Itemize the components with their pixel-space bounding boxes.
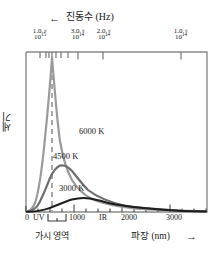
- visible-region-brace: [48, 214, 66, 221]
- x-tick-label-0: 0: [25, 214, 29, 222]
- frequency-tick-label: 2.0 × 1014: [88, 28, 120, 41]
- x-tick-label-2000: 2000: [121, 214, 137, 222]
- x-tick-label-1000: 1000: [69, 214, 85, 222]
- frequency-axis-title: 진동수 (Hz): [66, 12, 114, 22]
- x-tick-label-ir: IR: [99, 214, 107, 222]
- frequency-axis-arrow-icon: ←: [49, 13, 60, 24]
- curve-label-4500k: 4500 K: [53, 152, 78, 161]
- frequency-tick-label: 1.0 × 1014: [165, 28, 197, 41]
- wavelength-axis-arrow-icon: →: [186, 231, 197, 242]
- intensity-axis-title: 세기: [2, 112, 12, 132]
- frequency-axis-ticks: [40, 52, 181, 60]
- visible-region-label: 가시 영역: [35, 232, 69, 241]
- frequency-tick-label: 1.0 × 1015: [24, 28, 56, 41]
- blackbody-spectrum-figure: ← 진동수 (Hz) 1.0 × 1015 3.0 × 1014 2.0 × 1…: [0, 0, 218, 254]
- x-tick-label-uv: UV: [33, 214, 45, 222]
- x-tick-label-3000: 3000: [166, 214, 182, 222]
- curve-label-6000k: 6000 K: [79, 127, 104, 136]
- curve-6000k: [27, 58, 206, 212]
- wavelength-axis-title: 파장 (nm): [131, 232, 170, 242]
- curve-label-3000k: 3000 K: [59, 184, 84, 193]
